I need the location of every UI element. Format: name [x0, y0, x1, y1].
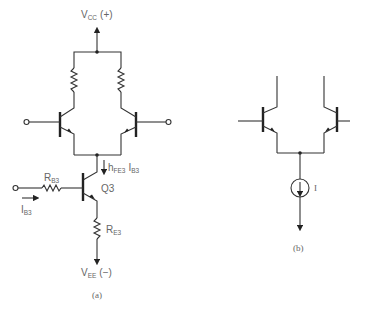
collector-current-label: hFE3IB3 — [108, 162, 140, 174]
current-source — [291, 179, 309, 197]
emitter-resistor-re3 — [94, 218, 100, 239]
caption-a: (a) — [92, 290, 102, 300]
circuit-diagram: VCC(+) hFE3IB3 Q3 RB3 IB3 RE3 VEE(−) (a) — [0, 0, 367, 312]
transistor-q1 — [24, 92, 74, 155]
rb3-label: RB3 — [44, 172, 60, 184]
current-source-label: I — [314, 183, 317, 193]
input-terminal-left — [24, 120, 29, 125]
re3-label: RE3 — [106, 224, 122, 236]
figure-b: I (b) — [238, 76, 350, 253]
q3-label: Q3 — [101, 183, 115, 194]
top-rail — [74, 52, 121, 68]
transistor-right-b — [324, 76, 350, 153]
transistor-left-b — [238, 76, 277, 153]
ib3-label: IB3 — [21, 204, 32, 216]
caption-b: (b) — [293, 243, 304, 253]
base-resistor-rb3 — [42, 185, 61, 191]
vcc-label: VCC(+) — [81, 9, 113, 21]
figure-a: VCC(+) hFE3IB3 Q3 RB3 IB3 RE3 VEE(−) (a) — [13, 9, 171, 300]
vee-label: VEE(−) — [81, 267, 112, 279]
input-terminal-q3 — [13, 186, 18, 191]
collector-resistor-right — [118, 68, 124, 92]
collector-resistor-left — [71, 68, 77, 92]
input-terminal-right — [166, 120, 171, 125]
transistor-q2 — [121, 92, 171, 155]
